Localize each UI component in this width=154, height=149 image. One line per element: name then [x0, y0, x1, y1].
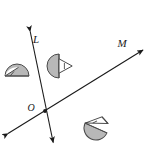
line-m: [8, 50, 143, 134]
protractor-left-shape: [5, 64, 29, 76]
line-l-label: L: [32, 33, 39, 45]
protractor-bottom-shape: [80, 112, 112, 144]
intersection-point: [43, 109, 47, 113]
line-m-group: [8, 50, 143, 134]
origin-label: O: [27, 102, 34, 113]
line-l-group: [30, 32, 53, 143]
geometry-figure: L M O: [0, 0, 154, 149]
geometry-canvas: L M O: [0, 0, 154, 149]
protractor-middle-wedge: [59, 59, 72, 73]
line-l: [30, 32, 53, 143]
protractor-bottom-body: [80, 123, 107, 144]
protractor-middle-shape: [47, 54, 72, 78]
protractor-middle-body: [47, 54, 59, 78]
line-m-label: M: [116, 37, 127, 49]
